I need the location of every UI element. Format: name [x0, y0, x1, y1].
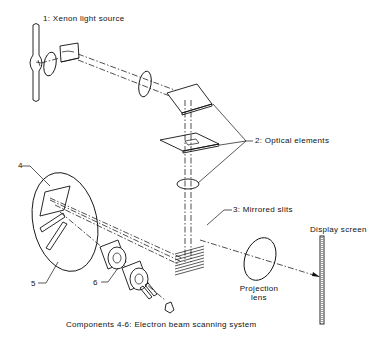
projection-lens	[238, 233, 281, 285]
deflector-rods	[40, 213, 67, 250]
optical-system-diagram: 1: Xenon light source 2: Optical element…	[0, 0, 382, 348]
component-6-coil-2	[122, 261, 148, 290]
label-optical-elements: 2: Optical elements	[255, 136, 329, 145]
label-display-screen: Display screen	[310, 225, 367, 234]
label-projection-line2: lens	[238, 293, 280, 302]
xenon-lamp	[30, 24, 42, 102]
component-4-plate	[40, 186, 70, 216]
beam-arrowhead	[312, 272, 320, 277]
label-xenon-light-source: 1: Xenon light source	[43, 14, 124, 23]
label-projection-lens: Projection lens	[238, 284, 280, 302]
diagram-canvas	[0, 0, 382, 348]
optical-plate-top	[167, 84, 212, 115]
component-5-disk	[23, 166, 106, 277]
label-component-4: 4	[18, 161, 23, 170]
label-mirrored-slits: 3: Mirrored slits	[233, 205, 293, 214]
label-projection-line1: Projection	[238, 284, 280, 293]
lamp-lens	[42, 51, 58, 77]
optical-plate-middle	[160, 133, 219, 153]
label-component-6: 6	[93, 278, 98, 287]
diagram-caption: Components 4-6: Electron beam scanning s…	[66, 320, 256, 329]
optical-lens-bottom	[177, 179, 199, 189]
component-6-coil-1	[100, 240, 126, 269]
label-component-5: 5	[31, 279, 36, 288]
cathode	[165, 302, 174, 313]
lamp-mirror	[60, 43, 79, 62]
